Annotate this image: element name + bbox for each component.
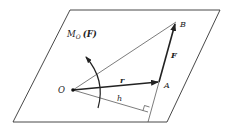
label-r: r xyxy=(120,75,125,85)
label-b: B xyxy=(179,20,186,29)
lever-arm-line xyxy=(73,90,148,112)
line-of-action xyxy=(148,82,159,122)
point-o-dot xyxy=(71,88,75,92)
label-force: F xyxy=(170,50,178,60)
label-h: h xyxy=(117,94,122,103)
moment-label: MO(F) xyxy=(66,29,97,40)
moment-diagram: MO(F) O A B F r h xyxy=(0,0,227,135)
moment-arc xyxy=(86,57,100,108)
label-o: O xyxy=(58,85,65,95)
vector-r xyxy=(73,82,158,90)
label-a: A xyxy=(163,81,170,90)
right-angle-marker xyxy=(143,106,150,111)
plane xyxy=(13,10,220,122)
